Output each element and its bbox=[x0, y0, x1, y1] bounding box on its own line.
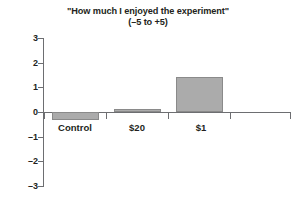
x-tick-mark bbox=[290, 113, 291, 119]
y-tick-label: –2 bbox=[8, 157, 38, 166]
y-tick-mark bbox=[38, 112, 43, 113]
y-tick-mark bbox=[38, 63, 43, 64]
y-tick-mark bbox=[38, 161, 43, 162]
x-category-label-control: Control bbox=[40, 122, 110, 133]
y-tick-mark bbox=[38, 87, 43, 88]
y-tick-label: 1 bbox=[8, 83, 38, 92]
y-tick-label: 0 bbox=[8, 108, 38, 117]
y-tick-label: 3 bbox=[8, 34, 38, 43]
y-tick-label: –1 bbox=[8, 133, 38, 142]
y-tick-mark bbox=[38, 186, 43, 187]
x-tick-mark bbox=[44, 113, 45, 119]
bar-chart-figure: "How much I enjoyed the experiment" (–5 … bbox=[0, 0, 296, 199]
x-tick-mark bbox=[106, 113, 107, 119]
y-tick-label: –3 bbox=[8, 182, 38, 191]
plot-area: 3 2 1 0 –1 –2 –3 Control $20 $1 bbox=[0, 0, 296, 199]
bar-control bbox=[52, 112, 99, 120]
bar-20 bbox=[114, 109, 161, 112]
x-category-label-1: $1 bbox=[166, 122, 236, 133]
y-tick-mark bbox=[38, 38, 43, 39]
y-tick-label: 2 bbox=[8, 59, 38, 68]
bar-1 bbox=[176, 77, 223, 112]
x-tick-mark bbox=[230, 113, 231, 119]
x-category-label-20: $20 bbox=[102, 122, 172, 133]
x-tick-mark bbox=[168, 113, 169, 119]
y-tick-mark bbox=[38, 137, 43, 138]
